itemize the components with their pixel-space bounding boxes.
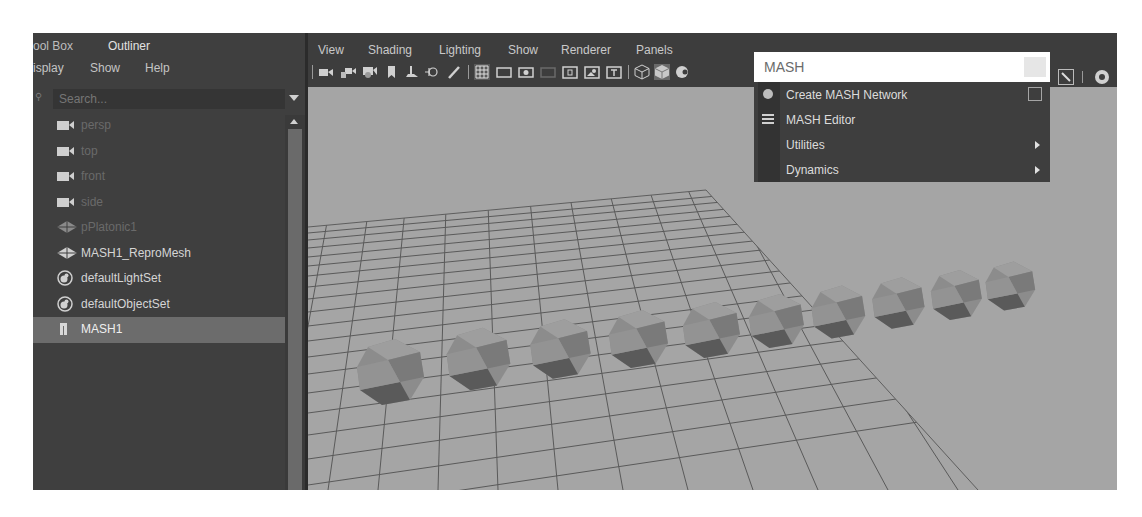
outliner-item-default-object-set[interactable]: defaultObjectSet [33, 292, 285, 318]
camera-icon [57, 145, 75, 158]
scroll-up-icon[interactable] [290, 119, 298, 124]
menu-item-create-mash-network[interactable]: Create MASH Network [754, 82, 1050, 107]
tab-outliner[interactable]: Outliner [108, 39, 150, 53]
search-options-icon[interactable]: ⚲ [35, 91, 47, 105]
ground-grid [308, 185, 1028, 490]
menu-show[interactable]: Show [508, 43, 538, 57]
smooth-shade-icon[interactable] [654, 64, 670, 80]
safe-action-icon[interactable] [584, 64, 600, 80]
grid-icon[interactable] [474, 64, 490, 80]
set-icon [57, 298, 75, 311]
camera-icon[interactable] [318, 64, 334, 80]
search-dropdown-icon[interactable] [289, 95, 299, 101]
camera-icon [57, 196, 75, 209]
bookmark-icon[interactable] [384, 64, 400, 80]
outliner-list: persp top front side pPlatonic1 [33, 113, 285, 343]
tab-tool-box[interactable]: ool Box [33, 39, 73, 53]
clear-search-button[interactable] [1024, 57, 1046, 77]
2d-pan-icon[interactable] [424, 64, 440, 80]
isolate-select-icon[interactable] [1058, 69, 1074, 85]
outliner-item-persp[interactable]: persp [33, 113, 285, 139]
scroll-thumb[interactable] [288, 129, 302, 490]
camera-icon [57, 119, 75, 132]
list-icon [758, 107, 780, 132]
toolbar-separator [628, 65, 629, 79]
resolution-gate-icon[interactable] [518, 64, 534, 80]
outliner-scrollbar[interactable] [285, 115, 305, 490]
panel-tabs: ool Box Outliner [33, 33, 305, 57]
blank-icon [758, 132, 780, 157]
mash-icon [57, 323, 75, 336]
mash-node-icon [758, 82, 780, 107]
mesh-icon [57, 221, 75, 234]
image-plane-icon[interactable] [404, 64, 420, 80]
field-chart-icon[interactable] [562, 64, 578, 80]
popup-results: Create MASH Network MASH Editor Utilitie… [754, 82, 1050, 182]
camera-lock-icon[interactable] [340, 64, 356, 80]
toolbar-separator [468, 65, 469, 79]
search-input[interactable] [53, 89, 285, 109]
menu-help[interactable]: Help [145, 61, 170, 75]
menu-panels[interactable]: Panels [636, 43, 673, 57]
camera-attr-icon[interactable] [362, 64, 378, 80]
safe-title-icon[interactable] [606, 64, 622, 80]
outliner-panel: ool Box Outliner isplay Show Help ⚲ pers… [33, 33, 305, 490]
outliner-item-side[interactable]: side [33, 190, 285, 216]
menu-item-dynamics[interactable]: Dynamics [754, 157, 1050, 182]
render-settings-icon[interactable] [1094, 69, 1110, 89]
menu-item-mash-editor[interactable]: MASH Editor [754, 107, 1050, 132]
film-gate-icon[interactable] [496, 64, 512, 80]
option-box-icon[interactable] [1028, 87, 1042, 101]
menu-search-input[interactable] [754, 52, 1050, 82]
submenu-arrow-icon [1035, 141, 1040, 149]
outliner-item-mash1[interactable]: MASH1 [33, 317, 285, 343]
outliner-search: ⚲ [33, 88, 305, 110]
menu-display[interactable]: isplay [33, 61, 64, 75]
toolbar-separator [1082, 71, 1083, 83]
set-icon [57, 272, 75, 285]
outliner-item-platonic[interactable]: pPlatonic1 [33, 215, 285, 241]
wireframe-icon[interactable] [634, 64, 650, 80]
shade-options-icon[interactable] [674, 64, 690, 80]
outliner-menu-bar: isplay Show Help [33, 57, 305, 81]
menu-lighting[interactable]: Lighting [439, 43, 481, 57]
outliner-item-front[interactable]: front [33, 164, 285, 190]
menu-show[interactable]: Show [90, 61, 120, 75]
outliner-item-repromesh[interactable]: MASH1_ReproMesh [33, 241, 285, 267]
mesh-icon [57, 247, 75, 260]
submenu-arrow-icon [1035, 166, 1040, 174]
toolbar-separator [312, 65, 313, 79]
menu-renderer[interactable]: Renderer [561, 43, 611, 57]
menu-item-utilities[interactable]: Utilities [754, 132, 1050, 157]
grease-pencil-icon[interactable] [446, 64, 462, 80]
gate-mask-icon[interactable] [540, 64, 556, 80]
outliner-item-default-light-set[interactable]: defaultLightSet [33, 266, 285, 292]
blank-icon [758, 157, 780, 182]
camera-icon [57, 170, 75, 183]
outliner-item-top[interactable]: top [33, 139, 285, 165]
mash-search-popup: Create MASH Network MASH Editor Utilitie… [754, 52, 1050, 182]
menu-view[interactable]: View [318, 43, 344, 57]
menu-shading[interactable]: Shading [368, 43, 412, 57]
